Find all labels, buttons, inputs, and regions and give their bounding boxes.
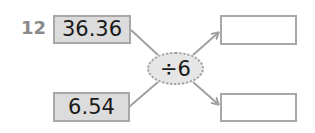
input-line-bottom — [129, 82, 158, 107]
input-box-top: 36.36 — [53, 15, 131, 44]
arrow-bottom — [193, 82, 218, 104]
division-exercise: 12 36.36 6.54 ÷6 — [0, 0, 315, 133]
question-number: 12 — [21, 17, 46, 39]
input-box-bottom: 6.54 — [53, 92, 130, 122]
answer-box-bottom[interactable] — [220, 93, 297, 122]
operation-bubble: ÷6 — [147, 52, 204, 85]
input-line-top — [131, 30, 158, 55]
arrow-top — [193, 33, 218, 55]
answer-box-top[interactable] — [220, 15, 297, 45]
